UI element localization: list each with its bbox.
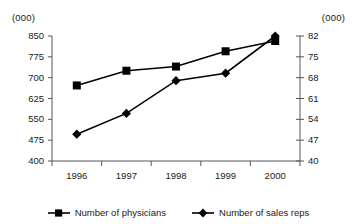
x-axis-tick-label: 2000 bbox=[253, 171, 297, 181]
right-axis-tick-label: 61 bbox=[308, 94, 344, 104]
plot-area bbox=[0, 0, 357, 224]
left-axis-ticks bbox=[48, 36, 52, 161]
x-axis-ticks bbox=[52, 161, 300, 166]
left-axis-tick-label: 700 bbox=[8, 73, 44, 83]
diamond-marker-icon bbox=[192, 208, 214, 218]
legend-label-physicians: Number of physicians bbox=[75, 207, 166, 218]
left-axis-tick-label: 475 bbox=[8, 135, 44, 145]
left-axis-tick-label: 400 bbox=[8, 156, 44, 166]
left-axis-tick-label: 550 bbox=[8, 114, 44, 124]
series-layer bbox=[72, 31, 280, 138]
legend-label-sales-reps: Number of sales reps bbox=[219, 207, 309, 218]
left-axis-tick-label: 775 bbox=[8, 52, 44, 62]
right-axis-tick-label: 47 bbox=[308, 135, 344, 145]
right-axis-tick-label: 40 bbox=[308, 156, 344, 166]
x-axis-tick-label: 1997 bbox=[104, 171, 148, 181]
right-axis-tick-label: 54 bbox=[308, 114, 344, 124]
chart-legend: Number of physicians Number of sales rep… bbox=[0, 207, 357, 218]
legend-item-physicians[interactable]: Number of physicians bbox=[48, 207, 166, 218]
x-axis-tick-label: 1999 bbox=[204, 171, 248, 181]
right-axis-tick-label: 82 bbox=[308, 31, 344, 41]
right-axis-tick-label: 68 bbox=[308, 73, 344, 83]
left-axis-tick-label: 625 bbox=[8, 94, 44, 104]
left-axis-tick-label: 850 bbox=[8, 31, 44, 41]
x-axis-tick-label: 1996 bbox=[55, 171, 99, 181]
legend-item-sales-reps[interactable]: Number of sales reps bbox=[192, 207, 309, 218]
axis-lines bbox=[52, 36, 300, 161]
square-marker-icon bbox=[48, 208, 70, 218]
line-chart: (000) (000) 850775700625550475400 827568… bbox=[0, 0, 357, 224]
right-axis-tick-label: 75 bbox=[308, 52, 344, 62]
x-axis-tick-label: 1998 bbox=[154, 171, 198, 181]
